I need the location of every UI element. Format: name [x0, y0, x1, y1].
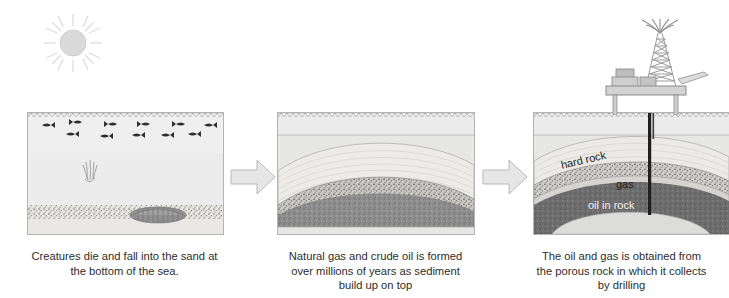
caption-line: the bottom of the sea. — [8, 264, 241, 279]
platform-legs — [613, 95, 678, 115]
platform-deck — [606, 86, 686, 95]
caption-line: Natural gas and crude oil is formed — [259, 249, 492, 264]
caption-line: by drilling — [515, 278, 728, 293]
geology-label-gas: gas — [616, 178, 634, 190]
caption-line: Creatures die and fall into the sand at — [8, 249, 241, 264]
caption-panel-1: Creatures die and fall into the sand at … — [8, 249, 241, 278]
sun-icon — [42, 12, 104, 74]
geology-label-oil-in-rock: oil in rock — [588, 199, 634, 211]
caption-line: build up on top — [259, 278, 492, 293]
arrow-step-1-to-2 — [230, 158, 276, 196]
caption-panel-2: Natural gas and crude oil is formed over… — [259, 249, 492, 293]
caption-line: over millions of years as sediment — [259, 264, 492, 279]
panel-2-sediment-layers — [277, 112, 475, 235]
caption-line: The oil and gas is obtained from — [515, 249, 728, 264]
caption-line: the porous rock in which it collects — [515, 264, 728, 279]
arrow-step-2-to-3 — [482, 158, 528, 196]
derrick-crown — [642, 19, 678, 33]
offshore-oil-rig — [596, 19, 712, 115]
panel-3-drilling — [533, 112, 729, 235]
helipad — [678, 72, 708, 84]
panel-1-sea-life — [27, 112, 224, 235]
caption-panel-3: The oil and gas is obtained from the por… — [515, 249, 728, 293]
